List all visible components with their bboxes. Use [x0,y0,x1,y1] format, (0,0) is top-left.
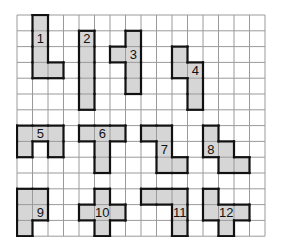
pentomino-grid: 123456789101112 [16,14,266,237]
piece-label: 6 [99,126,106,141]
piece-label: 4 [192,63,199,78]
piece-label: 5 [37,126,44,141]
piece-label: 1 [37,31,44,46]
piece-label: 2 [83,31,90,46]
piece-label: 3 [130,47,137,62]
piece-label: 9 [37,205,44,220]
piece-label: 7 [161,142,168,157]
grid-canvas: 123456789101112 [16,14,266,237]
piece-label: 8 [207,142,214,157]
piece-label: 12 [219,205,233,220]
piece-label: 11 [173,205,187,220]
piece-label: 10 [95,205,109,220]
